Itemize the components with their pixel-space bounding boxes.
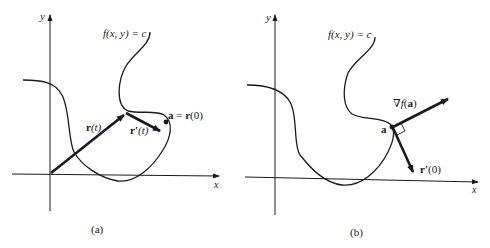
y-axis-label: y: [39, 10, 45, 22]
tangent-vector-r-prime-0: [393, 128, 413, 172]
point-a-label: a: [381, 123, 387, 135]
r-prime-t-label: r′(t): [130, 124, 149, 137]
curve-label: f(x, y) = c: [103, 27, 147, 40]
panel-b: y x f(x, y) = c ∇f(a) r′(0) a (b): [245, 11, 478, 239]
panel-b-caption: (b): [350, 226, 363, 239]
gradient-label: ∇f(a): [393, 97, 417, 110]
curve-label: f(x, y) = c: [328, 28, 372, 41]
x-axis-label: x: [471, 184, 477, 195]
figure-canvas: y x f(x, y) = c r(t) r′(t) a = r(0) (a) …: [0, 0, 490, 248]
panel-a: y x f(x, y) = c r(t) r′(t) a = r(0) (a): [12, 10, 219, 236]
point-a-label: a = r(0): [168, 109, 203, 122]
r-prime-0-label: r′(0): [420, 163, 441, 176]
y-axis-label: y: [265, 11, 271, 23]
level-curve: [247, 37, 394, 185]
x-axis: [12, 174, 219, 176]
panel-a-caption: (a): [91, 223, 104, 236]
level-curve: [23, 32, 170, 181]
x-axis-label: x: [213, 179, 219, 190]
point-a: [390, 125, 395, 130]
r-t-label: r(t): [86, 121, 102, 134]
